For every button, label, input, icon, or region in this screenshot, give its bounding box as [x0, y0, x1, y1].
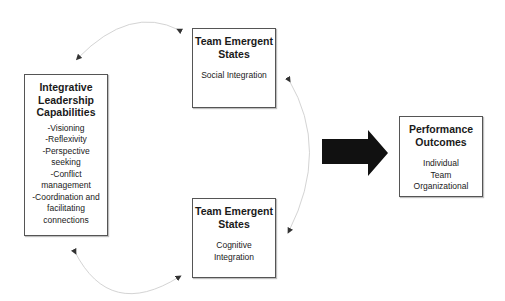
leadership-title: Integrative Leadership Capabilities	[25, 81, 107, 119]
title-line: Leadership	[25, 94, 107, 107]
list-item: Team	[400, 170, 482, 182]
leadership-capabilities-list: -Visioning -Reflexivity -Perspective see…	[25, 123, 107, 227]
cognitive-items: Cognitive Integration	[193, 240, 275, 263]
title-line: States	[193, 48, 275, 61]
list-item: Cognitive	[193, 240, 275, 252]
title-line: Integrative	[25, 81, 107, 94]
social-integration-box: Team Emergent States Social Integration	[192, 28, 276, 108]
list-item: seeking	[25, 157, 107, 169]
list-item: Organizational	[400, 181, 482, 193]
integrative-leadership-box: Integrative Leadership Capabilities -Vis…	[24, 74, 108, 236]
list-item: -Visioning	[25, 123, 107, 135]
list-item: -Reflexivity	[25, 134, 107, 146]
performance-title: Performance Outcomes	[400, 123, 482, 148]
title-line: Outcomes	[400, 136, 482, 149]
list-item: Integration	[193, 252, 275, 264]
title-line: Capabilities	[25, 106, 107, 119]
list-item: -Coordination and	[25, 192, 107, 204]
list-item: Individual	[400, 158, 482, 170]
block-arrow-right-icon	[322, 130, 388, 176]
social-items: Social Integration	[193, 70, 275, 82]
title-line: Team Emergent	[193, 205, 275, 218]
title-line: Team Emergent	[193, 35, 275, 48]
list-item: -Conflict	[25, 169, 107, 181]
list-item: connections	[25, 215, 107, 227]
list-item: management	[25, 180, 107, 192]
list-item: -Perspective	[25, 146, 107, 158]
title-line: Performance	[400, 123, 482, 136]
performance-items: Individual Team Organizational	[400, 158, 482, 193]
cognitive-title: Team Emergent States	[193, 205, 275, 230]
title-line: States	[193, 218, 275, 231]
list-item: facilitating	[25, 203, 107, 215]
curved-connector-bottom-left	[75, 252, 179, 294]
list-item: Social Integration	[193, 70, 275, 82]
curved-connector-top-left	[78, 22, 179, 58]
cognitive-integration-box: Team Emergent States Cognitive Integrati…	[192, 198, 276, 278]
curved-connector-right	[289, 80, 310, 231]
social-title: Team Emergent States	[193, 35, 275, 60]
performance-outcomes-box: Performance Outcomes Individual Team Org…	[399, 116, 483, 197]
